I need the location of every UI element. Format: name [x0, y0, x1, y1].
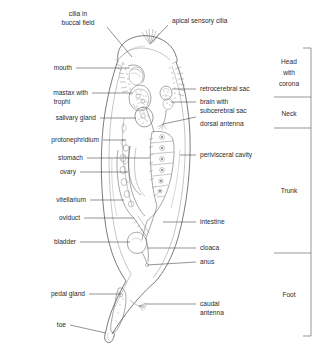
label-caudal-antenna-line2: antenna	[200, 309, 224, 316]
label-cilia-in-buccal-field-line2: buccal field	[62, 19, 95, 26]
label-brain-with-subcerebral-sac-line2: subcerebral sac	[200, 107, 247, 114]
leader-anus	[147, 262, 196, 265]
label-oviduct: oviduct	[59, 214, 80, 221]
label-perivisceral-cavity: perivisceral cavity	[200, 151, 253, 159]
label-stomach: stomach	[58, 154, 83, 161]
region-head-with-corona-line1: Head	[281, 58, 297, 65]
mouth-structure	[128, 65, 144, 85]
region-neck: Neck	[281, 110, 297, 117]
label-mouth: mouth	[54, 64, 73, 71]
region-head-with-corona-line2: with	[282, 69, 295, 76]
label-protonephridium: protonephridium	[51, 136, 99, 144]
label-pedal-gland: pedal gland	[51, 290, 85, 298]
label-intestine: intestine	[200, 218, 225, 225]
label-mastax-with-trophi-line1: mastax with	[53, 89, 88, 96]
label-dorsal-antenna: dorsal antenna	[200, 120, 244, 127]
region-foot: Foot	[282, 291, 295, 298]
label-toe: toe	[57, 321, 66, 328]
leader-toe	[70, 325, 106, 333]
rotifer-anatomy-diagram: cilia in buccal field apical sensory cil…	[0, 0, 320, 350]
label-salivary-gland: salivary gland	[56, 114, 97, 122]
bladder	[127, 232, 146, 253]
label-caudal-antenna-line1: caudal	[200, 300, 220, 307]
label-ovary: ovary	[60, 168, 77, 176]
body-outline	[101, 36, 190, 343]
label-cilia-in-buccal-field-line1: cilia in	[69, 10, 88, 17]
label-apical-sensory-cilia: apical sensory cilia	[172, 17, 228, 25]
region-head-with-corona-line3: corona	[279, 80, 299, 87]
label-anus: anus	[200, 258, 215, 265]
mastax-with-trophi	[129, 85, 151, 111]
oviduct	[134, 216, 149, 236]
region-trunk: Trunk	[281, 187, 298, 194]
label-brain-with-subcerebral-sac-line1: brain with	[200, 98, 229, 105]
label-mastax-with-trophi-line2: trophi	[54, 98, 71, 106]
label-vitellarium: vitellarium	[56, 196, 86, 203]
body-region-bracket: Head with corona Neck Trunk Foot	[274, 48, 311, 336]
label-bladder: bladder	[54, 238, 77, 245]
organism-illustration	[101, 29, 190, 343]
label-retrocerebral-sac: retrocerebral sac	[200, 85, 250, 92]
label-cloaca: cloaca	[200, 244, 219, 251]
cloaca-anus	[142, 238, 149, 267]
